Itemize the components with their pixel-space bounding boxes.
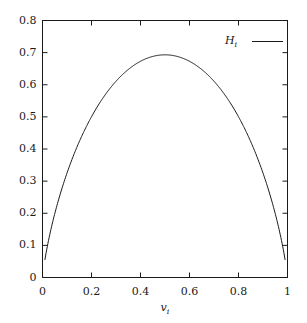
x-tick-label: 0.8 bbox=[219, 286, 259, 297]
x-tick-label: 1 bbox=[268, 286, 307, 297]
legend-entry-H-i: Hi bbox=[225, 35, 237, 49]
y-tick-label: 0.4 bbox=[19, 143, 37, 154]
x-tick-label: 0.2 bbox=[72, 286, 112, 297]
entropy-line-chart bbox=[0, 0, 306, 323]
x-tick-label: 0.4 bbox=[121, 286, 161, 297]
y-tick-label: 0.1 bbox=[19, 239, 37, 250]
x-axis-title-subscript: i bbox=[167, 307, 170, 316]
x-tick-label: 0 bbox=[23, 286, 63, 297]
y-tick-label: 0.2 bbox=[19, 207, 37, 218]
y-tick-label: 0.6 bbox=[19, 79, 37, 90]
y-tick-label: 0.7 bbox=[19, 47, 37, 58]
y-tick-label: 0.5 bbox=[19, 111, 37, 122]
chart-figure: 00.10.20.30.40.50.60.70.8 00.20.40.60.81… bbox=[0, 0, 306, 323]
legend-label-base: H bbox=[225, 34, 235, 47]
chart-background bbox=[0, 0, 306, 323]
x-tick-label: 0.6 bbox=[170, 286, 210, 297]
y-tick-label: 0.8 bbox=[19, 15, 37, 26]
legend-label-subscript: i bbox=[235, 40, 238, 49]
y-tick-label: 0.3 bbox=[19, 175, 37, 186]
y-tick-label: 0 bbox=[30, 272, 37, 283]
x-axis-title: vi bbox=[145, 302, 185, 316]
